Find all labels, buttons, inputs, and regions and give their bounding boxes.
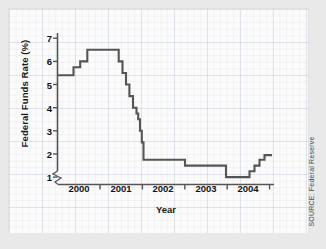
y-tick-label-4: 4: [34, 102, 52, 113]
plot-area: 7 6 5 4 3 2 1 2000 2001 2002 2003 2004 F…: [0, 0, 326, 249]
y-tick-label-1: 1: [34, 172, 52, 183]
x-tick-label-2003: 2003: [184, 183, 228, 194]
x-axis-title: Year: [58, 204, 274, 215]
y-tick-label-6: 6: [34, 56, 52, 67]
y-axis-title: Federal Funds Rate (%): [19, 29, 30, 159]
x-tick-label-2004: 2004: [226, 183, 270, 194]
y-tick-label-2: 2: [34, 149, 52, 160]
source-credit: SOURCE: Federal Reserve: [308, 127, 315, 237]
data-line: [58, 50, 272, 177]
x-tick-label-2001: 2001: [99, 183, 143, 194]
y-tick-label-7: 7: [34, 33, 52, 44]
y-tick-labels: 7 6 5 4 3 2 1: [34, 0, 52, 249]
x-tick-label-2000: 2000: [57, 183, 101, 194]
y-tick-label-5: 5: [34, 79, 52, 90]
chart-screenshot: 7 6 5 4 3 2 1 2000 2001 2002 2003 2004 F…: [0, 0, 326, 249]
x-tick-label-2002: 2002: [141, 183, 185, 194]
y-tick-label-3: 3: [34, 125, 52, 136]
